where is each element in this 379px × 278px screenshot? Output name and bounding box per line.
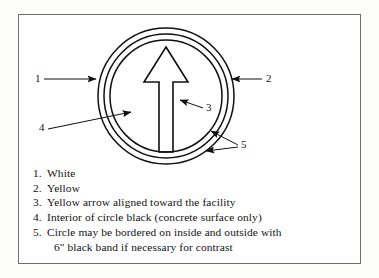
legend-text-4: Interior of circle black (concrete surfa…: [47, 211, 262, 223]
legend-item-1: 1.White: [33, 166, 333, 181]
callout-label-2: 2: [266, 73, 272, 84]
legend-item-4: 4.Interior of circle black (concrete sur…: [33, 210, 333, 225]
legend-number-5: 5.: [33, 225, 47, 240]
callout-label-1: 1: [35, 73, 41, 84]
callout-label-3: 3: [206, 102, 212, 113]
legend-item-3: 3.Yellow arrow aligned toward the facili…: [33, 195, 333, 210]
legend-number-1: 1.: [33, 166, 47, 181]
legend-number-3: 3.: [33, 195, 47, 210]
legend-number-4: 4.: [33, 210, 47, 225]
legend-text-3: Yellow arrow aligned toward the facility: [47, 196, 236, 208]
legend-text-2: Yellow: [47, 182, 80, 194]
legend-text-5-continuation: 6" black band if necessary for contrast: [33, 240, 333, 255]
legend: 1.White 2.Yellow 3.Yellow arrow aligned …: [33, 166, 333, 254]
legend-text-1: White: [47, 167, 75, 179]
callout-label-4: 4: [39, 122, 45, 133]
figure-root: 1 2 3 4 5 1.White 2.Yellow 3.Yellow arro…: [0, 0, 379, 278]
legend-item-2: 2.Yellow: [33, 181, 333, 196]
legend-item-5: 5.Circle may be bordered on inside and o…: [33, 225, 333, 254]
legend-number-2: 2.: [33, 181, 47, 196]
callout-label-5: 5: [241, 139, 247, 150]
legend-text-5: Circle may be bordered on inside and out…: [47, 226, 282, 238]
